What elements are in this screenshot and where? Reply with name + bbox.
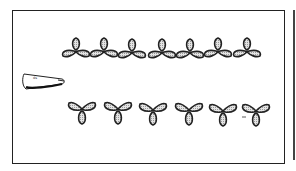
- bottom-row: [69, 103, 270, 126]
- shape-top-4: [149, 39, 176, 58]
- svg-text:ds: ds: [33, 76, 37, 80]
- shape-bottom-2: [105, 103, 132, 124]
- shape-bottom-5: [210, 105, 237, 126]
- shape-top-6: [205, 38, 232, 57]
- illustration: ds: [0, 0, 296, 171]
- shape-bottom-3: [140, 104, 167, 125]
- shape-bottom-4: [176, 104, 203, 125]
- shape-bottom-6: [243, 105, 270, 126]
- shape-bottom-1: [69, 103, 96, 124]
- shape-top-3: [119, 39, 146, 58]
- nozzle-icon: ds: [23, 74, 65, 89]
- top-row: [63, 38, 261, 58]
- shape-top-2: [91, 38, 118, 57]
- shape-top-7: [234, 38, 261, 57]
- shape-top-1: [63, 38, 90, 57]
- shape-top-5: [177, 39, 204, 58]
